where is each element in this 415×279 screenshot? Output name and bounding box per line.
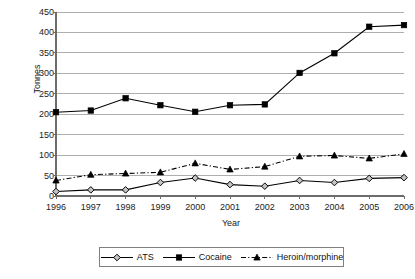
x-tick-label: 2006 — [384, 202, 415, 212]
x-axis-title: Year — [56, 218, 406, 228]
chart-container: Tonnes 050100150200250300350400450 19961… — [0, 0, 415, 279]
x-axis-tick-labels: 1996199719981999200020012002200320042005… — [56, 202, 406, 216]
legend-label-heroin-morphine: Heroin/morphine — [277, 252, 344, 262]
legend-swatch-cocaine — [162, 252, 196, 263]
legend-label-ats: ATS — [137, 252, 154, 262]
chart-legend: ATS Cocaine Heroin/morphine — [99, 247, 344, 267]
legend-label-cocaine: Cocaine — [199, 252, 232, 262]
legend-item-heroin-morphine: Heroin/morphine — [240, 252, 344, 263]
plot-area — [0, 0, 415, 279]
legend-item-ats: ATS — [100, 252, 154, 263]
legend-item-cocaine: Cocaine — [162, 252, 232, 263]
legend-swatch-heroin-morphine — [240, 252, 274, 263]
legend-swatch-ats — [100, 252, 134, 263]
